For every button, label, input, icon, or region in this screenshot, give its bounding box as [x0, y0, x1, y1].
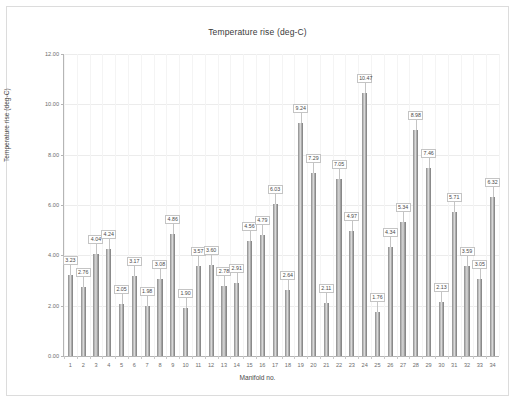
bar[interactable]: [388, 247, 393, 356]
bar[interactable]: [273, 204, 278, 356]
data-label-leader: [224, 276, 225, 286]
data-label-leader: [109, 239, 110, 249]
x-tick-mark: [166, 356, 167, 359]
bar[interactable]: [170, 234, 175, 356]
gridline-vertical: [218, 54, 219, 356]
x-tick-mark: [307, 356, 308, 359]
data-label: 5.34: [396, 203, 411, 212]
data-label: 4.97: [344, 212, 359, 221]
bar[interactable]: [209, 265, 214, 356]
x-tick-mark: [294, 356, 295, 359]
bar[interactable]: [196, 266, 201, 356]
bar[interactable]: [298, 123, 303, 356]
bar[interactable]: [119, 304, 124, 356]
bar[interactable]: [285, 290, 290, 356]
gridline-vertical: [320, 54, 321, 356]
data-label: 5.71: [447, 193, 462, 202]
gridline-vertical: [371, 54, 372, 356]
data-label-leader: [390, 237, 391, 247]
gridline-vertical: [90, 54, 91, 356]
x-tick-mark: [409, 356, 410, 359]
bar[interactable]: [183, 308, 188, 356]
data-label: 1.90: [178, 289, 193, 298]
data-label: 7.46: [421, 149, 436, 158]
data-label-leader: [326, 293, 327, 303]
x-tick-mark: [77, 356, 78, 359]
x-tick-mark: [461, 356, 462, 359]
x-tick-mark: [358, 356, 359, 359]
x-tick-mark: [486, 356, 487, 359]
bar[interactable]: [413, 130, 418, 356]
x-tick-mark: [192, 356, 193, 359]
x-tick-mark: [102, 356, 103, 359]
x-tick-mark: [205, 356, 206, 359]
data-label: 6.03: [268, 185, 283, 194]
x-tick-mark: [384, 356, 385, 359]
data-label: 9.24: [293, 104, 308, 113]
bar[interactable]: [336, 179, 341, 356]
x-tick-mark: [320, 356, 321, 359]
bar[interactable]: [490, 197, 495, 356]
data-label-leader: [173, 224, 174, 234]
bar[interactable]: [234, 283, 239, 356]
y-tick-mark: [61, 54, 64, 55]
bar[interactable]: [324, 303, 329, 356]
x-tick-mark: [345, 356, 346, 359]
data-label-leader: [352, 221, 353, 231]
y-tick-label: 12.00: [31, 51, 59, 57]
gridline-vertical: [256, 54, 257, 356]
x-tick-mark: [230, 356, 231, 359]
bar[interactable]: [93, 254, 98, 356]
y-tick-mark: [61, 155, 64, 156]
gridline-vertical: [154, 54, 155, 356]
data-label: 10.47: [357, 74, 372, 83]
data-label: 3.05: [472, 260, 487, 269]
data-label: 4.34: [383, 228, 398, 237]
data-label-leader: [480, 269, 481, 279]
y-tick-mark: [61, 205, 64, 206]
data-label: 2.11: [319, 284, 334, 293]
bar[interactable]: [157, 279, 162, 357]
x-tick-mark: [179, 356, 180, 359]
bar[interactable]: [247, 241, 252, 356]
chart-title: Temperature rise (deg-C): [7, 27, 508, 37]
bar[interactable]: [426, 168, 431, 356]
gridline-vertical: [294, 54, 295, 356]
bar[interactable]: [221, 286, 226, 356]
x-axis-title: Manifold no.: [7, 374, 508, 381]
chart-frame: Temperature rise (deg-C) Temperature ris…: [6, 6, 509, 396]
bar[interactable]: [375, 312, 380, 356]
data-label-leader: [262, 225, 263, 235]
gridline-vertical: [64, 54, 65, 356]
x-tick-mark: [333, 356, 334, 359]
y-tick-label: 8.00: [31, 152, 59, 158]
bar[interactable]: [81, 287, 86, 356]
bar[interactable]: [106, 249, 111, 356]
gridline-vertical: [230, 54, 231, 356]
bar[interactable]: [132, 276, 137, 356]
data-label-leader: [134, 266, 135, 276]
bar[interactable]: [464, 266, 469, 356]
bar[interactable]: [349, 231, 354, 356]
data-label: 4.24: [101, 230, 116, 239]
x-tick-mark: [64, 356, 65, 359]
data-label-leader: [441, 292, 442, 302]
data-label-leader: [186, 298, 187, 308]
bar[interactable]: [362, 93, 367, 356]
bar[interactable]: [477, 279, 482, 356]
bar[interactable]: [260, 235, 265, 356]
bar[interactable]: [400, 222, 405, 356]
y-tick-label: 0.00: [31, 353, 59, 359]
bar[interactable]: [311, 173, 316, 356]
x-tick-mark: [128, 356, 129, 359]
x-tick-mark: [218, 356, 219, 359]
data-label-leader: [429, 158, 430, 168]
bar[interactable]: [145, 306, 150, 356]
bar[interactable]: [68, 275, 73, 356]
data-label-leader: [147, 296, 148, 306]
x-tick-mark: [397, 356, 398, 359]
y-tick-label: 2.00: [31, 303, 59, 309]
bar[interactable]: [452, 212, 457, 356]
data-label: 3.08: [152, 260, 167, 269]
bar[interactable]: [439, 302, 444, 356]
